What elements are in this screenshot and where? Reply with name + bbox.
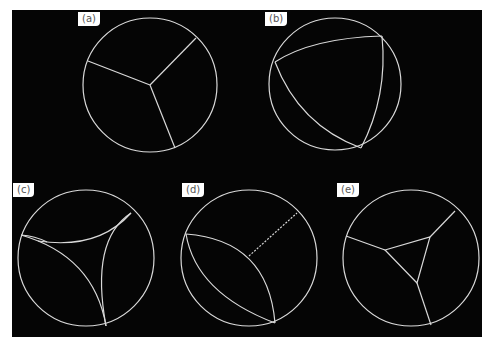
panel-c-circle bbox=[18, 190, 154, 326]
panel-d-lens-arc bbox=[186, 234, 275, 323]
panel-e-circle bbox=[343, 190, 479, 326]
panel-a-segment bbox=[150, 85, 175, 148]
panel-e-segment bbox=[430, 211, 455, 237]
panel-a-segment bbox=[88, 61, 150, 85]
panel-e-inner-triangle bbox=[385, 237, 430, 283]
panel-c-arc bbox=[102, 213, 131, 326]
panel-a-segment bbox=[150, 38, 196, 85]
soap-film-diagram bbox=[0, 0, 493, 349]
panel-e-segment bbox=[417, 283, 431, 325]
panel-c-drawing bbox=[18, 190, 154, 326]
panel-c-arc bbox=[21, 235, 106, 326]
panel-b-arc bbox=[275, 36, 382, 62]
panel-b-drawing bbox=[269, 18, 401, 150]
panel-e-label: (e) bbox=[337, 183, 359, 197]
panel-e-segment bbox=[346, 236, 385, 250]
panel-a-drawing bbox=[83, 18, 217, 152]
panel-d-lens-arc bbox=[186, 234, 275, 323]
panel-d-circle bbox=[181, 190, 317, 326]
panel-e-drawing bbox=[343, 190, 479, 326]
panel-d-drawing bbox=[181, 190, 317, 326]
panel-d-label: (d) bbox=[182, 183, 204, 197]
panel-b-arc bbox=[361, 36, 383, 148]
panel-c-label: (c) bbox=[13, 183, 34, 197]
panel-a-label: (a) bbox=[78, 12, 100, 26]
panel-d-segment bbox=[249, 213, 297, 256]
panel-c-arc bbox=[38, 213, 131, 243]
panel-b-arc bbox=[275, 62, 361, 148]
panel-b-label: (b) bbox=[265, 12, 287, 26]
